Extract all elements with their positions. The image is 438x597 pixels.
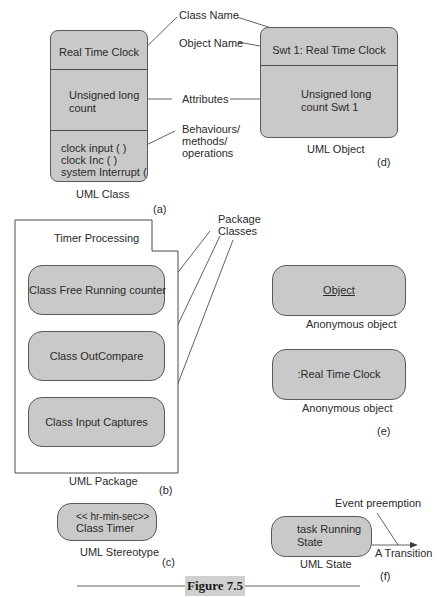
package-name: Timer Processing <box>54 232 139 245</box>
anonymous-object-2-caption: Anonymous object <box>302 402 393 415</box>
panel-c-tag: (c) <box>162 556 175 569</box>
transition-label: A Transition <box>375 547 432 560</box>
event-preemption-label: Event preemption <box>335 497 421 510</box>
state-line-2: State <box>297 536 323 549</box>
panel-b-tag: (b) <box>159 484 172 497</box>
package-class-2-label: Class OutCompare <box>29 350 164 363</box>
figure-caption: Figure 7.5 <box>185 576 245 596</box>
package-class-3: Class Input Captures <box>28 397 165 447</box>
anonymous-object-2-label: :Real Time Clock <box>273 368 405 381</box>
anonymous-object-1: Object <box>272 265 406 316</box>
package-class-2: Class OutCompare <box>28 331 165 381</box>
package-class-1: Class Free Running counter <box>28 265 165 315</box>
uml-stereotype-caption: UML Stereotype <box>80 546 159 559</box>
panel-f-tag: (f) <box>380 570 390 583</box>
uml-state-caption: UML State <box>300 558 352 571</box>
uml-package-caption: UML Package <box>69 475 138 488</box>
package-class-1-label: Class Free Running counter <box>29 284 164 297</box>
package-class-3-label: Class Input Captures <box>29 416 164 429</box>
uml-stereotype-box: << hr-min-sec>> Class Timer <box>57 503 157 541</box>
anonymous-object-1-label: Object <box>273 284 405 297</box>
stereotype-line-2: Class Timer <box>76 522 134 535</box>
state-line-1: task Running <box>297 523 361 536</box>
uml-state-box: task Running State <box>271 516 372 557</box>
panel-e-tag: (e) <box>377 425 390 438</box>
anonymous-object-1-caption: Anonymous object <box>306 318 397 331</box>
package-classes-label-2: Classes <box>218 225 257 238</box>
anonymous-object-2: :Real Time Clock <box>272 349 406 400</box>
